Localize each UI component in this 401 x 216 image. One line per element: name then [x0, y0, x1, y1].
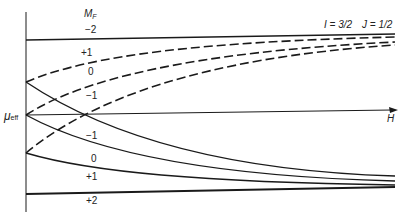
column-header: MF: [84, 8, 97, 20]
level-upper-mf-minus1: [26, 45, 395, 153]
quantum-number-I: I = 3/2: [324, 19, 353, 30]
label-lower-mf-plus1: +1: [86, 171, 98, 182]
x-axis-label: H: [387, 113, 395, 124]
label-upper-mf-minus1: −1: [86, 90, 98, 101]
label-upper-mf-0: 0: [88, 66, 94, 77]
level-lower-mf-minus1: [26, 82, 395, 176]
level-lower-mf-plus2: [26, 187, 395, 194]
energy-level-diagram: MF −2 +1 0 −1 −1 0 +1 +2 μeff H I = 3/2 …: [0, 0, 401, 216]
y-axis-label: μeff: [3, 109, 18, 123]
label-lower-mf-plus2: +2: [86, 195, 98, 206]
label-upper-mf-plus1: +1: [81, 47, 93, 58]
level-upper-mf-plus1: [26, 37, 395, 82]
level-lower-mf-plus1: [26, 153, 395, 185]
label-lower-mf-0: 0: [91, 153, 97, 164]
quantum-number-J: J = 1/2: [361, 19, 393, 30]
label-upper-mf-minus2: −2: [85, 24, 97, 35]
label-lower-mf-minus1: −1: [86, 130, 98, 141]
level-lower-mf-0: [26, 115, 395, 181]
